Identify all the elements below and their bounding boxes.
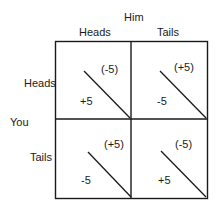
column-header-heads: Heads: [79, 26, 111, 38]
cell-th-you-payoff: -5: [81, 174, 91, 186]
cell-tt-him-payoff: (-5): [175, 138, 192, 150]
row-header-heads: Heads: [24, 77, 56, 89]
cell-hh-him-payoff: (-5): [101, 63, 118, 75]
cell-ht-him-payoff: (+5): [174, 61, 194, 73]
row-header-tails: Tails: [30, 151, 52, 163]
cell-ht-you-payoff: -5: [157, 95, 167, 107]
cell-hh-you-payoff: +5: [80, 95, 93, 107]
column-player-label: Him: [124, 11, 144, 23]
cell-th-him-payoff: (+5): [104, 138, 124, 150]
column-header-tails: Tails: [157, 26, 179, 38]
cell-tt-you-payoff: +5: [158, 174, 171, 186]
cell-diagonal-ht: [160, 71, 206, 118]
cell-diagonal-th: [88, 152, 131, 197]
row-player-label: You: [10, 116, 29, 128]
